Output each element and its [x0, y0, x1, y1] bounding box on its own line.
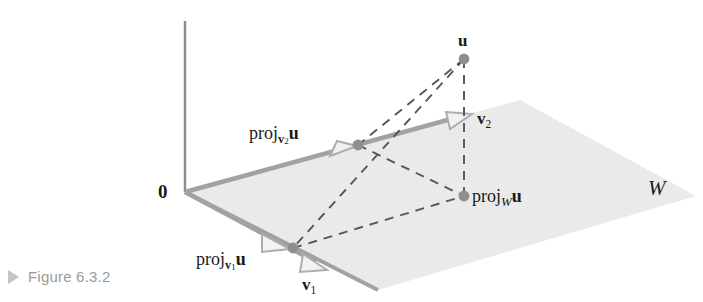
proj-v1-u-label: projv1u [196, 250, 246, 272]
point-proj-v2-u [353, 140, 364, 151]
proj-w-u-label: projWu [472, 187, 522, 209]
point-proj-v1-u [288, 243, 299, 254]
point-proj-w-u [459, 191, 470, 202]
point-u [459, 54, 470, 65]
subspace-w-label: W [648, 178, 666, 199]
vector-v2-label: v2 [477, 110, 491, 130]
triangle-right-icon [8, 270, 19, 284]
vector-v1-label: v1 [302, 276, 316, 296]
origin-label: 0 [158, 182, 168, 201]
figure-caption: Figure 6.3.2 [8, 268, 110, 285]
projection-diagram [0, 0, 703, 302]
figure-caption-text: Figure 6.3.2 [28, 268, 110, 285]
proj-v2-u-label: projv2u [249, 124, 299, 146]
figure-container: 0 u v1 v2 W projv1u projv2u projWu Figur… [0, 0, 703, 302]
vector-u-label: u [458, 32, 467, 49]
